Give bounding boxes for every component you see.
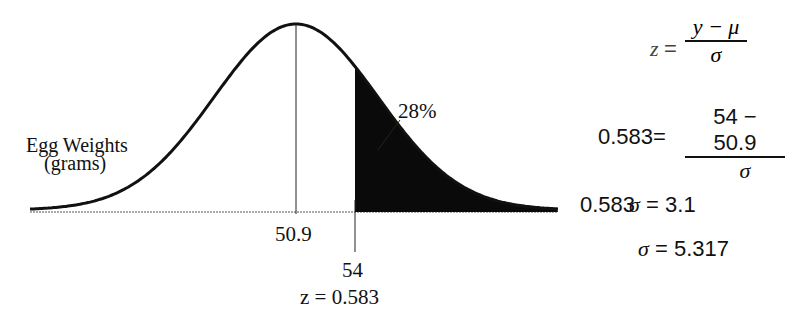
eq3-lhs-number: 0.583 — [580, 192, 635, 217]
eq4-lhs: σ — [638, 236, 649, 261]
equation-z-definition: z = — [650, 36, 677, 62]
area-percent-label: 28% — [398, 99, 437, 124]
eq1-fraction: y − μ σ — [685, 14, 747, 68]
equation-sigma-result: σ = 5.317 — [638, 236, 729, 262]
bell-curve — [30, 24, 558, 209]
eq1-equals: = — [664, 36, 677, 61]
eq3-equals: = — [646, 192, 659, 217]
eq2-equals: = — [653, 124, 666, 149]
eq1-numerator: y − μ — [685, 14, 747, 40]
equation-multiply: 0.583σ = 3.1 — [580, 192, 696, 218]
eq1-denominator: σ — [685, 42, 747, 68]
eq3-lhs-sigma: σ — [629, 192, 640, 217]
eq2-lhs: 0.583 — [598, 124, 653, 149]
eq2-fraction: 54 − 50.9 σ — [685, 104, 785, 184]
equation-substitution: 0.583= — [598, 124, 666, 150]
eq1-lhs: z — [650, 36, 659, 61]
variable-label-line2: (grams) — [44, 153, 106, 173]
mean-label: 50.9 — [275, 222, 312, 247]
eq4-rhs: 5.317 — [674, 236, 729, 261]
eq3-rhs: 3.1 — [665, 192, 696, 217]
cutoff-label: 54 — [342, 258, 363, 283]
z-score-label: z = 0.583 — [300, 285, 379, 310]
eq2-denominator: σ — [685, 158, 785, 184]
eq4-equals: = — [655, 236, 668, 261]
eq2-numerator: 54 − 50.9 — [685, 104, 785, 156]
